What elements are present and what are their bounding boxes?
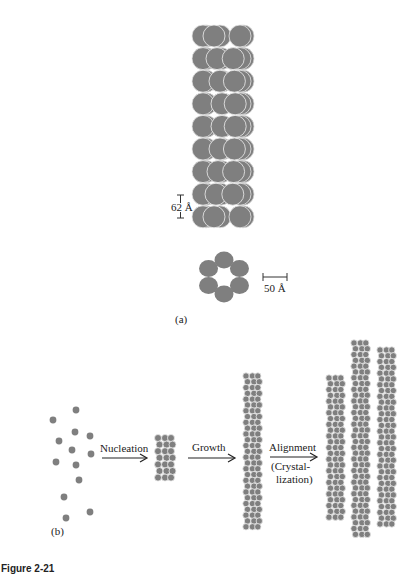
subunit-circle [244,390,250,396]
subunit-circle [169,454,176,461]
subunit-circle [363,479,369,485]
subunit-circle [327,450,333,456]
subunit-circle [155,474,162,481]
figure-canvas: 62 Å 50 Å (a) Nucleation Growth Alignmen… [0,0,418,576]
subunit-circle [363,525,369,531]
subunit-circle [256,518,262,524]
subunit-circle [69,447,76,454]
subunit-circle [378,480,384,486]
subunit-circle [364,520,370,526]
subunit-circle [155,448,162,455]
subunit-circle [364,450,370,456]
subunit-circle [327,497,333,503]
subunit-circle [327,508,333,514]
subunit-circle [256,390,262,396]
subunit-circle [244,471,250,477]
subunit-circle [256,402,262,408]
subunit-circle [338,491,344,497]
subunit-circle [338,502,344,508]
subunit-circle [243,512,249,518]
subunit-circle [156,441,163,448]
subunit-circle [390,480,396,486]
subunit-circle [378,387,384,393]
subunit-circle [255,500,261,506]
subunit-circle [390,515,396,521]
subunit-circle [377,451,383,457]
subunit-circle [363,433,369,439]
subunit-circle [364,438,370,444]
subunit-circle [256,495,262,501]
subunit-circle [352,462,358,468]
subunit-circle [326,444,332,450]
subunit-circle [229,206,251,228]
subunit-circle [339,450,345,456]
figure-caption: Figure 2-21 [1,563,54,574]
free-subunits [50,407,95,522]
subunit-circle [351,467,357,473]
subunit-circle [390,445,396,451]
subunit-circle [255,373,261,379]
subunit-circle [327,485,333,491]
subunit-circle [243,384,249,390]
subunit-circle [255,384,261,390]
subunit-circle [155,461,162,468]
subunit-circle [53,459,60,466]
subunit-circle [352,450,358,456]
subunit-circle [363,386,369,392]
subunit-circle [339,427,345,433]
subunit-circle [63,515,70,522]
subunit-circle [363,363,369,369]
subunit-circle [338,421,344,427]
subunit-circle [389,509,395,515]
subunit-circle [390,387,396,393]
subunit-circle [364,473,370,479]
subunit-circle [351,421,357,427]
ring-subunit [230,260,249,277]
subunit-circle [255,396,261,402]
subunit-circle [203,206,225,228]
subunit-circle [352,485,358,491]
subunit-circle [255,431,261,437]
subunit-circle [389,474,395,480]
subunit-circle [338,433,344,439]
subunit-circle [364,357,370,363]
subunit-circle [73,407,80,414]
subunit-circle [326,410,332,416]
subunit-circle [327,462,333,468]
subunit-circle [377,347,383,353]
subunit-circle [256,460,262,466]
subunit-circle [351,375,357,381]
subunit-circle [339,392,345,398]
subunit-circle [378,492,384,498]
subunit-circle [156,468,163,475]
ring-subunit [199,277,218,294]
subunit-circle [351,409,357,415]
subunit-circle [389,521,395,527]
subunit-circle [168,461,175,468]
subunit-circle [326,386,332,392]
subunit-circle [338,514,344,520]
subunit-circle [390,469,396,475]
subunit-circle [377,428,383,434]
subunit-circle [244,402,250,408]
subunit-circle [377,521,383,527]
crystallization-label-line2: lization) [276,473,313,486]
subunit-circle [352,346,358,352]
subunit-circle [168,435,175,442]
subunit-circle [352,380,358,386]
subunit-circle [364,496,370,502]
subunit-circle [352,404,358,410]
subunit-circle [243,442,249,448]
crystallization-label-line1: (Crystal- [271,460,310,473]
subunit-circle [351,502,357,508]
subunit-circle [378,457,384,463]
subunit-circle [351,444,357,450]
subunit-circle [352,369,358,375]
subunit-circle [327,473,333,479]
subunit-circle [243,524,249,530]
subunit-circle [243,419,249,425]
subunit-circle [327,381,333,387]
subunit-circle [377,440,383,446]
ring-scale-bar: 50 Å [263,273,287,294]
subunit-circle [352,392,358,398]
